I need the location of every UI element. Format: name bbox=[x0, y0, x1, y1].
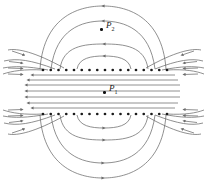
fringe-arrow bbox=[182, 129, 194, 133]
inner-arcs-above bbox=[60, 44, 148, 69]
fringe-arrow bbox=[184, 116, 198, 117]
plate-charge-dot bbox=[73, 69, 76, 72]
plate-charge-dot bbox=[166, 69, 169, 72]
fringe-arrow bbox=[8, 110, 22, 111]
plate-charge-dot bbox=[49, 69, 52, 72]
plate-charge-dot bbox=[127, 69, 130, 72]
plate-charge-dot bbox=[80, 113, 83, 116]
plate-charge-dot bbox=[57, 69, 60, 72]
plate-charge-dot bbox=[150, 69, 153, 72]
plate-charge-dot bbox=[88, 113, 91, 116]
plate-charge-dot bbox=[127, 113, 130, 116]
plate-charge-dot bbox=[111, 69, 114, 72]
fringe-line bbox=[167, 110, 204, 114]
outer-arc bbox=[40, 115, 103, 178]
fringe-arrow bbox=[12, 51, 24, 55]
fringe-arrow bbox=[8, 116, 22, 117]
fringe-line bbox=[3, 110, 43, 114]
plate-charge-dot bbox=[119, 69, 122, 72]
point-p1-label: P1 bbox=[109, 83, 118, 95]
inner-arc bbox=[104, 56, 131, 69]
plate-charge-dot bbox=[119, 113, 122, 116]
inner-arc bbox=[104, 115, 131, 128]
fringe-arrow bbox=[9, 121, 22, 123]
plate-charge-dot bbox=[142, 69, 145, 72]
plate-charge-dot bbox=[150, 113, 153, 116]
plate-charge-dot bbox=[158, 113, 161, 116]
fringe-arrow bbox=[9, 62, 22, 64]
plate-charge-dot bbox=[142, 113, 145, 116]
outer-arc bbox=[103, 115, 166, 178]
outer-arcs-above bbox=[40, 6, 166, 69]
fringe-arrow bbox=[184, 62, 197, 64]
edge-arrowheads-right bbox=[182, 51, 198, 133]
plate-charge-dot bbox=[57, 113, 60, 116]
outer-arc bbox=[51, 115, 103, 163]
inner-arc bbox=[77, 115, 104, 128]
plate-charge-dot bbox=[111, 113, 114, 116]
inner-arc bbox=[77, 56, 104, 69]
fringe-arrow bbox=[8, 74, 22, 75]
plate-charge-dot bbox=[80, 69, 83, 72]
plate-charge-dot bbox=[42, 113, 45, 116]
plate-charge-dot bbox=[96, 113, 99, 116]
plate-charge-dot bbox=[65, 113, 68, 116]
field-line-figure: P1 P2 bbox=[0, 0, 206, 182]
plate-charge-dot bbox=[96, 69, 99, 72]
outer-arc bbox=[103, 6, 166, 69]
plate-charge-dot bbox=[73, 113, 76, 116]
point-p1-dot bbox=[103, 91, 106, 94]
fringe-arrow bbox=[182, 51, 194, 55]
edge-arrowheads-left bbox=[8, 51, 24, 133]
plate-charge-dot bbox=[166, 113, 169, 116]
plate-charge-dot bbox=[104, 113, 107, 116]
outer-arc bbox=[40, 6, 103, 69]
point-p2-label: P2 bbox=[106, 20, 115, 32]
inner-arcs-below bbox=[60, 115, 148, 140]
fringe-arrow bbox=[184, 74, 198, 75]
outer-arcs-below bbox=[40, 115, 166, 178]
fringe-arrow bbox=[184, 110, 198, 111]
fringe-arrow bbox=[12, 129, 24, 133]
fringe-line bbox=[3, 70, 43, 74]
plate-charge-dot bbox=[135, 69, 138, 72]
fringe-arrow bbox=[184, 121, 197, 123]
plate-charge-dot bbox=[158, 69, 161, 72]
outer-arc bbox=[103, 115, 155, 163]
plate-charge-dot bbox=[104, 69, 107, 72]
fringe-line bbox=[167, 70, 204, 74]
plate-charge-dot bbox=[135, 113, 138, 116]
plate-charge-dot bbox=[65, 69, 68, 72]
outer-arc bbox=[51, 21, 103, 69]
plate-charge-dot bbox=[49, 113, 52, 116]
plate-charge-dot bbox=[88, 69, 91, 72]
fringe-arrow bbox=[8, 68, 22, 69]
point-p2-dot bbox=[100, 28, 103, 31]
plate-charge-dot bbox=[42, 69, 45, 72]
fringe-arrow bbox=[184, 68, 198, 69]
